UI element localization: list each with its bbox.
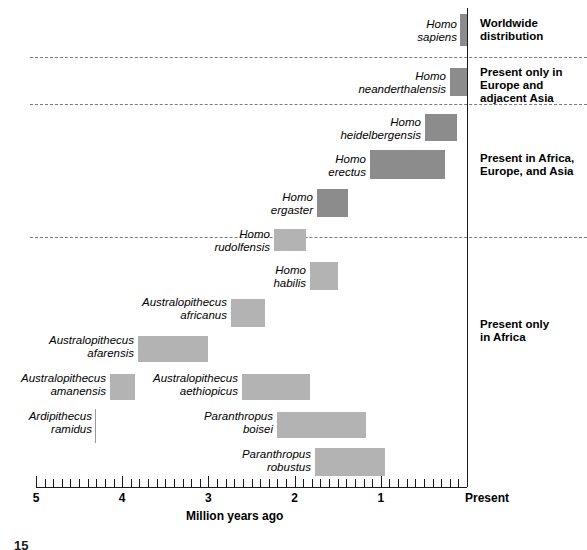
x-axis-tick: [148, 479, 149, 487]
x-axis-tick: [243, 479, 244, 487]
x-axis-tick: [450, 479, 451, 487]
x-axis-tick-label-5: 5: [33, 491, 40, 505]
group-caption-line: Worldwide: [480, 17, 543, 30]
taxon-genus: Homo: [0, 264, 306, 277]
taxon-species: erectus: [0, 166, 366, 179]
group-caption-africa-europe-asia: Present in Africa,Europe, and Asia: [480, 152, 574, 178]
x-axis-tick: [157, 479, 158, 487]
x-axis-tick-label-1: 1: [377, 491, 384, 505]
taxon-species: africanus: [0, 309, 227, 322]
x-axis-tick: [217, 479, 218, 487]
x-axis-tick: [286, 479, 287, 487]
group-caption-line: Europe and: [480, 79, 562, 92]
range-bar-homo-habilis: [310, 262, 338, 290]
taxon-label-homo-sapiens: Homosapiens: [0, 18, 457, 44]
group-caption-line: Present only: [480, 318, 549, 331]
range-bar-homo-heidelbergensis: [425, 114, 457, 141]
x-axis-tick: [96, 479, 97, 487]
taxon-genus: Paranthropus: [0, 448, 311, 461]
x-axis-tick: [303, 479, 304, 487]
taxon-label-homo-rudolfensis: Homorudolfensis: [0, 228, 270, 254]
taxon-label-homo-erectus: Homoerectus: [0, 153, 366, 179]
taxon-genus: Homo: [0, 18, 457, 31]
group-caption-europe-asia: Present only inEurope andadjacent Asia: [480, 66, 562, 106]
x-axis-tick: [338, 479, 339, 487]
x-axis-tick: [346, 479, 347, 487]
range-bar-australopithecus-aethiopicus: [242, 374, 310, 400]
x-axis-tick: [320, 479, 321, 487]
x-axis-tick: [381, 476, 382, 487]
taxon-genus: Homo: [0, 70, 446, 83]
taxon-species: afarensis: [0, 347, 134, 360]
taxon-genus: Homo: [0, 153, 366, 166]
x-axis-tick: [260, 479, 261, 487]
x-axis-tick: [415, 479, 416, 487]
taxon-genus: Paranthropus: [0, 410, 273, 423]
x-axis-tick-label-4: 4: [119, 491, 126, 505]
taxon-label-paranthropus-boisei: Paranthropusboisei: [0, 410, 273, 436]
ardipithecus-range-stub: [95, 409, 96, 443]
taxon-label-paranthropus-robustus: Paranthropusrobustus: [0, 448, 311, 474]
x-axis-tick: [79, 479, 80, 487]
x-axis-tick: [269, 479, 270, 487]
taxon-species: habilis: [0, 277, 306, 290]
group-caption-line: distribution: [480, 30, 543, 43]
x-axis-tick: [424, 479, 425, 487]
range-bar-homo-neanderthalensis: [450, 68, 467, 96]
taxon-label-homo-ergaster: Homoergaster: [0, 191, 313, 217]
range-bar-paranthropus-boisei: [277, 412, 366, 438]
x-axis-tick: [364, 479, 365, 487]
group-caption-line: Present in Africa,: [480, 152, 574, 165]
taxon-genus: Homo: [0, 228, 270, 241]
x-axis-tick: [131, 479, 132, 487]
taxon-genus: Australopithecus: [0, 334, 134, 347]
taxon-label-homo-heidelbergensis: Homoheidelbergensis: [0, 116, 421, 142]
x-axis-tick: [407, 479, 408, 487]
group-caption-africa-only: Present onlyin Africa: [480, 318, 549, 344]
x-axis-tick: [183, 479, 184, 487]
taxon-species: aethiopicus: [0, 385, 238, 398]
x-axis-tick: [252, 479, 253, 487]
x-axis-tick: [122, 476, 123, 487]
x-axis-present-label: Present: [465, 491, 509, 505]
x-axis-tick: [200, 479, 201, 487]
x-axis-tick: [226, 479, 227, 487]
x-axis-tick: [174, 479, 175, 487]
x-axis-tick: [398, 479, 399, 487]
taxon-species: robustus: [0, 461, 311, 474]
x-axis-line: [36, 487, 467, 488]
taxon-label-australopithecus-africanus: Australopithecusafricanus: [0, 296, 227, 322]
taxon-genus: Homo: [0, 191, 313, 204]
x-axis-tick: [441, 479, 442, 487]
x-axis-tick: [277, 479, 278, 487]
taxon-label-australopithecus-aethiopicus: Australopithecusaethiopicus: [0, 372, 238, 398]
x-axis-tick: [70, 479, 71, 487]
x-axis-tick: [114, 479, 115, 487]
taxon-label-homo-habilis: Homohabilis: [0, 264, 306, 290]
x-axis-tick-label-3: 3: [205, 491, 212, 505]
x-axis-tick: [355, 479, 356, 487]
taxon-species: heidelbergensis: [0, 129, 421, 142]
x-axis-tick: [191, 479, 192, 487]
taxon-genus: Australopithecus: [0, 296, 227, 309]
x-axis-tick: [105, 479, 106, 487]
taxon-species: rudolfensis: [0, 241, 270, 254]
figure-number: 15: [14, 538, 28, 550]
range-bar-australopithecus-africanus: [231, 299, 265, 327]
x-axis-tick: [295, 476, 296, 487]
range-bar-homo-erectus: [370, 150, 444, 179]
x-axis-tick: [36, 476, 37, 487]
x-axis-tick: [234, 479, 235, 487]
range-bar-homo-ergaster: [317, 189, 348, 217]
x-axis-tick: [208, 476, 209, 487]
group-caption-line: Europe, and Asia: [480, 165, 574, 178]
x-axis-tick: [372, 479, 373, 487]
group-caption-line: Present only in: [480, 66, 562, 79]
x-axis-title: Million years ago: [186, 509, 283, 523]
x-axis-tick: [458, 479, 459, 487]
range-bar-paranthropus-robustus: [315, 448, 385, 476]
group-separator-1: [30, 57, 587, 58]
x-axis-tick: [45, 479, 46, 487]
x-axis-tick: [467, 476, 468, 487]
group-caption-line: in Africa: [480, 331, 549, 344]
